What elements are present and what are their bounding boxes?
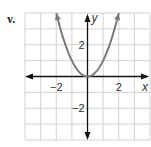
x-axis-label: x	[141, 80, 149, 94]
y-tick-label: 2	[78, 39, 84, 51]
y-tick-label: −2	[72, 102, 85, 114]
x-tick-label: 2	[116, 81, 122, 93]
coordinate-plane: −222−2xy	[0, 0, 151, 147]
x-tick-label: −2	[50, 81, 63, 93]
y-axis-label: y	[91, 11, 99, 25]
